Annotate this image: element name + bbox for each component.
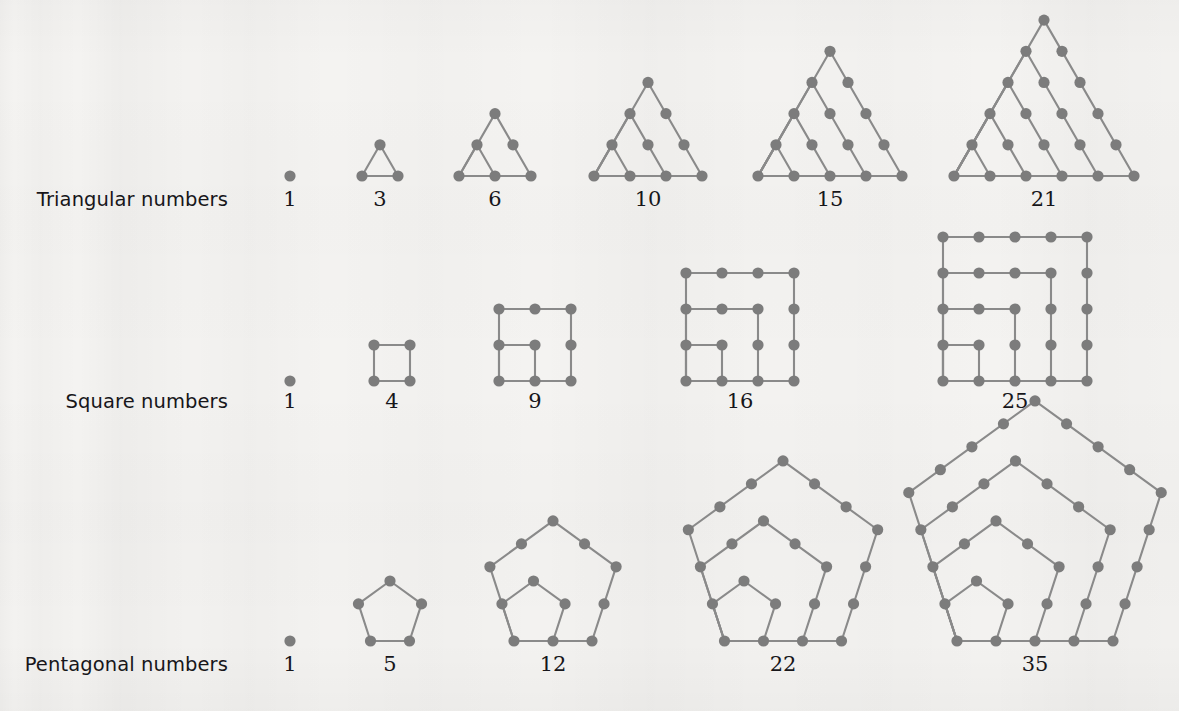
figure-edge: [842, 530, 878, 641]
figure-dot: [404, 635, 415, 646]
figure-dot: [384, 575, 395, 586]
figure-dot: [1002, 77, 1013, 88]
figure-dot: [680, 303, 691, 314]
figure-dot: [951, 635, 962, 646]
figure-dot: [559, 598, 570, 609]
figure-dot: [842, 77, 853, 88]
figure-dot: [984, 108, 995, 119]
figure-dot: [1132, 561, 1143, 572]
figure-dot: [547, 515, 558, 526]
figure-dot: [752, 375, 763, 386]
figure-dot: [1009, 231, 1020, 242]
figure-dot: [738, 575, 749, 586]
count-label-square-4: 4: [385, 389, 398, 413]
figure-dot: [1045, 231, 1056, 242]
figure-dot: [606, 139, 617, 150]
figure-pentagon-22: 22: [683, 455, 884, 676]
count-label-triangle-6: 6: [488, 187, 501, 211]
figure-dot: [789, 538, 800, 549]
figure-dot: [680, 339, 691, 350]
figure-dot: [758, 635, 769, 646]
figure-dot: [842, 139, 853, 150]
figure-dot: [1009, 267, 1020, 278]
figure-dot: [1045, 375, 1056, 386]
figure-dot: [990, 635, 1001, 646]
figure-dot: [860, 170, 871, 181]
figure-dot: [770, 139, 781, 150]
figure-triangle-6: 6: [453, 108, 536, 211]
figure-edge: [783, 461, 878, 530]
figure-dot: [1128, 170, 1139, 181]
figure-dot: [714, 501, 725, 512]
figure-dot: [1124, 464, 1135, 475]
figure-dot: [998, 418, 1009, 429]
figure-dot: [821, 561, 832, 572]
figurate-numbers-diagram: Triangular numbers136101521Square number…: [0, 0, 1179, 711]
figure-dot: [1156, 487, 1167, 498]
figure-dot: [416, 598, 427, 609]
figure-dot: [1144, 524, 1155, 535]
figure-dot: [797, 635, 808, 646]
figure-dot: [1045, 339, 1056, 350]
figure-square-1: 1: [283, 375, 296, 413]
figure-dots: [353, 575, 427, 646]
figure-dot: [726, 538, 737, 549]
figure-dot: [973, 375, 984, 386]
figure-edge: [358, 604, 370, 641]
figure-edge: [358, 581, 390, 604]
figure-dot: [984, 170, 995, 181]
figure-dot: [716, 267, 727, 278]
figure-dot: [809, 598, 820, 609]
figure-dot: [1080, 598, 1091, 609]
figure-dot: [948, 170, 959, 181]
figure-dot: [642, 139, 653, 150]
figure-square-16: 16: [680, 267, 799, 413]
figure-dot: [516, 538, 527, 549]
figure-dot: [937, 231, 948, 242]
figure-dots: [453, 108, 536, 182]
figure-dot: [788, 267, 799, 278]
figure-dot: [529, 303, 540, 314]
figure-dot: [971, 575, 982, 586]
figure-dot: [1056, 46, 1067, 57]
figure-dot: [1038, 139, 1049, 150]
figure-dot: [1022, 538, 1033, 549]
figure-edges: [688, 461, 877, 641]
figure-dot: [598, 598, 609, 609]
figurate-row-triangle: Triangular numbers136101521: [36, 15, 1140, 211]
figure-dot: [1093, 561, 1104, 572]
figure-dot: [611, 561, 622, 572]
figure-dot: [1020, 108, 1031, 119]
figure-dot: [788, 108, 799, 119]
figure-dot: [707, 598, 718, 609]
figure-dot: [507, 139, 518, 150]
figure-dot: [716, 375, 727, 386]
figure-pentagon-35: 35: [903, 395, 1167, 676]
figure-dot: [973, 267, 984, 278]
figure-dot: [1093, 441, 1104, 452]
figure-dot: [1056, 170, 1067, 181]
figure-dot: [1038, 15, 1049, 26]
figure-dot: [579, 538, 590, 549]
figure-triangle-15: 15: [752, 46, 907, 211]
figure-edge: [712, 581, 744, 604]
figure-square-9: 9: [493, 303, 576, 413]
figure-dot: [680, 267, 691, 278]
figure-dot: [1081, 303, 1092, 314]
figure-dots: [680, 267, 799, 386]
figure-dot: [493, 375, 504, 386]
figure-dot: [1092, 170, 1103, 181]
figure-dot: [624, 170, 635, 181]
count-label-pentagon-1: 1: [283, 652, 296, 676]
figure-triangle-10: 10: [588, 77, 707, 211]
figure-edge: [996, 604, 1008, 641]
figure-dot: [915, 524, 926, 535]
figure-dot: [1009, 339, 1020, 350]
figure-dot: [752, 267, 763, 278]
figure-dot: [1110, 139, 1121, 150]
figure-dot: [806, 77, 817, 88]
figure-dot: [496, 598, 507, 609]
count-label-triangle-21: 21: [1031, 187, 1058, 211]
figure-dot: [752, 339, 763, 350]
figure-dot: [368, 375, 379, 386]
